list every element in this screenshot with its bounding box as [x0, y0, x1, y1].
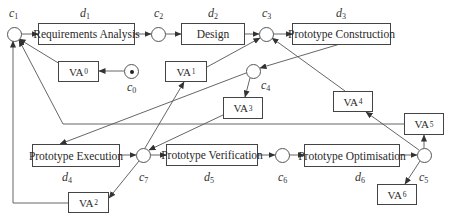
- va-base: VA: [387, 189, 401, 201]
- va-sub: 3: [249, 104, 253, 113]
- connector-c4: [246, 64, 261, 79]
- connector-c6: [275, 148, 290, 163]
- label-c0: c0: [127, 80, 136, 95]
- label-d2: d2: [208, 6, 218, 21]
- label-c7: c7: [139, 170, 148, 185]
- label-c2: c2: [154, 6, 163, 21]
- activity-label: Prototype Verification: [161, 149, 263, 161]
- connector-c3: [259, 27, 274, 42]
- label-d6: d6: [355, 170, 365, 185]
- va-sub: 2: [94, 198, 98, 207]
- va-sub: 4: [359, 97, 363, 106]
- label-d1: d1: [80, 6, 90, 21]
- va6-box: VA6: [377, 184, 417, 205]
- connector-c1: [7, 27, 22, 42]
- va-base: VA: [69, 66, 83, 78]
- label-c6: c6: [278, 170, 287, 185]
- va3-box: VA3: [223, 97, 263, 119]
- activity-prototype-construction: Prototype Construction: [292, 23, 391, 45]
- va-base: VA: [176, 66, 190, 78]
- activity-label: Prototype Optimisation: [298, 150, 406, 162]
- activity-prototype-execution: Prototype Execution: [32, 144, 120, 167]
- label-d4: d4: [62, 170, 72, 185]
- label-d5: d5: [204, 170, 214, 185]
- label-d3: d3: [336, 6, 346, 21]
- va-base: VA: [414, 118, 428, 130]
- va-sub: 5: [430, 120, 434, 129]
- va-base: VA: [343, 96, 357, 108]
- edge-c7-va1: [145, 82, 184, 148]
- label-c4: c4: [261, 78, 270, 93]
- va-sub: 6: [403, 190, 407, 199]
- activity-label: Prototype Construction: [288, 28, 395, 40]
- activity-requirements-analysis: Requirements Analysis: [38, 23, 135, 45]
- connector-c7: [136, 148, 151, 163]
- process-diagram: Requirements Analysis Design Prototype C…: [0, 0, 450, 220]
- va0-box: VA0: [58, 61, 99, 82]
- activity-label: Design: [197, 28, 230, 40]
- connector-c0-start: [124, 64, 139, 79]
- va1-box: VA1: [165, 61, 207, 82]
- va-base: VA: [233, 102, 247, 114]
- activity-prototype-verification: Prototype Verification: [166, 144, 258, 166]
- va-base: VA: [79, 197, 93, 209]
- edge-c4-d4: [60, 73, 246, 144]
- label-c3: c3: [262, 6, 271, 21]
- edge-d3-c4: [260, 44, 340, 68]
- connector-c2: [151, 27, 166, 42]
- va2-box: VA2: [68, 192, 109, 213]
- activity-prototype-optimisation: Prototype Optimisation: [304, 144, 400, 167]
- activity-label: Requirements Analysis: [33, 28, 139, 40]
- edge-c4-va3: [245, 78, 250, 97]
- activity-design: Design: [181, 23, 245, 45]
- va4-box: VA4: [333, 91, 373, 112]
- connector-c5: [417, 148, 432, 163]
- va5-box: VA5: [404, 113, 444, 135]
- label-c1: c1: [9, 6, 18, 21]
- va-sub: 1: [192, 67, 196, 76]
- activity-label: Prototype Execution: [29, 150, 123, 162]
- va-sub: 0: [84, 67, 88, 76]
- label-c5: c5: [419, 170, 428, 185]
- edge-c5-va6: [405, 161, 420, 184]
